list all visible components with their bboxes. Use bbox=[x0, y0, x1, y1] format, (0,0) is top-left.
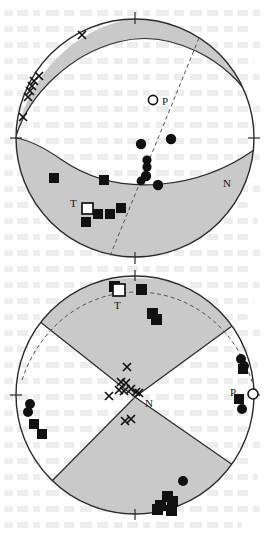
stereonet-upper: P T N bbox=[0, 0, 270, 270]
n-axis-label-upper: N bbox=[223, 178, 231, 189]
n-axis-label-lower: N bbox=[145, 398, 153, 409]
t-axis-label-lower: T bbox=[114, 300, 121, 311]
figure-page: P T N bbox=[0, 0, 270, 534]
stereonet-lower-svg bbox=[0, 270, 270, 534]
shaded-quadrants-lower bbox=[34, 278, 243, 516]
t-axis-marker-lower bbox=[113, 284, 125, 296]
p-axis-label-upper: P bbox=[162, 96, 168, 107]
p-axis-label-lower: P bbox=[230, 387, 236, 398]
p-axis-marker-upper bbox=[148, 95, 157, 104]
p-axis-marker-lower bbox=[248, 389, 258, 399]
t-axis-label-upper: T bbox=[70, 198, 77, 209]
stereonet-lower: T P N bbox=[0, 270, 270, 534]
stereonet-upper-svg bbox=[0, 0, 270, 270]
t-axis-marker-upper bbox=[82, 203, 93, 214]
